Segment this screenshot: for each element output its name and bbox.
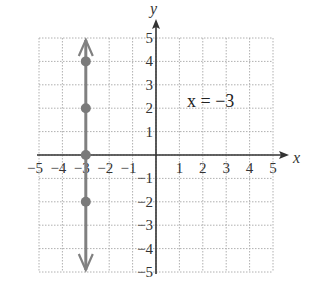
x-tick-label: −3 xyxy=(74,160,90,176)
y-axis-label: y xyxy=(148,0,158,18)
x-axis-label: x xyxy=(292,149,300,166)
y-tick-label: −3 xyxy=(137,217,153,233)
y-tick-label: −4 xyxy=(137,241,153,257)
y-tick-label: 1 xyxy=(146,124,154,140)
data-point xyxy=(81,150,91,160)
y-tick-label: −2 xyxy=(137,194,153,210)
axes xyxy=(37,19,289,274)
y-tick-label: −5 xyxy=(137,264,153,280)
x-tick-label: −2 xyxy=(97,160,113,176)
data-point xyxy=(81,56,91,66)
x-tick-label: −1 xyxy=(121,160,137,176)
data-point xyxy=(81,103,91,113)
y-tick-label: 5 xyxy=(146,30,154,46)
x-tick-label: −5 xyxy=(27,160,43,176)
x-tick-label: 5 xyxy=(269,160,277,176)
x-tick-label: 3 xyxy=(222,160,230,176)
y-tick-label: 4 xyxy=(146,53,154,69)
vertical-line-x-neg3 xyxy=(79,40,93,270)
x-tick-label: 1 xyxy=(176,160,184,176)
equation-label: x = −3 xyxy=(187,91,234,111)
y-tick-label: 3 xyxy=(146,77,154,93)
x-tick-label: −4 xyxy=(50,160,66,176)
y-tick-label: 2 xyxy=(146,100,154,116)
x-tick-label: 2 xyxy=(199,160,207,176)
coordinate-plane: −5−4−3−2−112345−5−4−3−2−112345 x y x = −… xyxy=(0,0,309,307)
data-point xyxy=(81,197,91,207)
y-tick-label: −1 xyxy=(137,170,153,186)
x-tick-label: 4 xyxy=(246,160,254,176)
